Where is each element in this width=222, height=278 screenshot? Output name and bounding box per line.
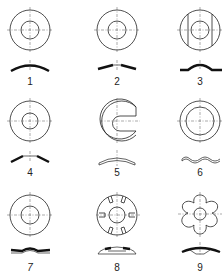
washer-8: [96, 192, 140, 254]
washer-5-side-view: [99, 150, 135, 166]
washer-7-side-view: [11, 249, 50, 254]
washer-1-plan-view: [7, 7, 53, 53]
item-label-8: 8: [107, 262, 127, 274]
washer-1-side-view: [11, 60, 49, 71]
washer-6: [177, 98, 222, 163]
washer-9-plan-view: [178, 192, 222, 238]
washer-3-plan-view: [177, 7, 222, 53]
washer-4-plan-view: [7, 98, 53, 144]
item-label-3: 3: [190, 76, 210, 88]
washer-2: [94, 7, 140, 70]
washer-6-side-view: [182, 157, 220, 163]
washer-2-side-view: [98, 60, 136, 70]
washer-5: [99, 98, 140, 166]
washer-8-side-view: [98, 247, 136, 254]
item-label-7: 7: [20, 262, 40, 274]
washer-9: [178, 192, 222, 256]
washer-6-plan-view: [177, 98, 222, 144]
item-label-5: 5: [107, 167, 127, 179]
washer-7-plan-view: [7, 192, 53, 238]
item-label-4: 4: [20, 167, 40, 179]
item-label-6: 6: [190, 167, 210, 179]
item-label-1: 1: [20, 76, 40, 88]
washer-diagram: .o { fill:none; stroke:#222; stroke-widt…: [0, 0, 222, 278]
washer-9-side-view: [182, 242, 220, 256]
washer-3-side-view: [180, 60, 222, 70]
washer-4: [7, 98, 53, 162]
item-label-2: 2: [107, 76, 127, 88]
washer-4-side-view: [11, 151, 49, 162]
washer-2-plan-view: [94, 7, 140, 53]
washer-3: [177, 7, 222, 70]
washer-7: [7, 192, 53, 253]
washer-1: [7, 7, 53, 71]
washer-8-plan-view: [96, 192, 140, 238]
item-label-9: 9: [190, 262, 210, 274]
washer-5-plan-view: [100, 98, 140, 144]
